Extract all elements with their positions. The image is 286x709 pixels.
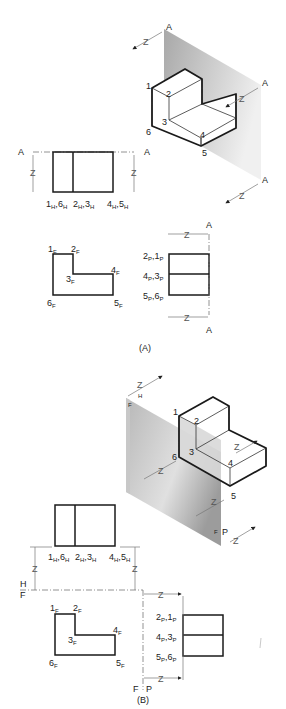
iso-b-label-2: 2 <box>194 416 199 426</box>
iso-label-5: 5 <box>202 148 207 158</box>
side-view-a-label-3: 5P,6P <box>143 291 164 302</box>
top-view-a-plane-left: A <box>18 147 24 157</box>
top-view-b: Z Z H F 1H,6H 2H,3H 4H,5H <box>20 505 143 600</box>
z-label-b3: Z <box>158 466 164 476</box>
caption-a: (A) <box>139 343 151 353</box>
plane-label-b-p-iso: P <box>222 527 228 537</box>
top-view-b-label-1: 1H,6H <box>48 552 69 563</box>
side-view-b-label-2: 4P,3P <box>156 632 177 643</box>
top-view-b-z-right: Z <box>132 564 138 574</box>
iso-b-label-3: 3 <box>189 447 194 457</box>
top-view-a-label-1: 1H,6H <box>46 199 67 210</box>
side-view-b-z-bot: Z <box>158 674 164 684</box>
front-view-a-label-2: 2F <box>71 244 80 255</box>
iso-b-label-5: 5 <box>231 491 236 501</box>
side-view-a-label-2: 4P,3P <box>143 271 164 282</box>
top-view-a-labels: 1H,6H 2H,3H 4H,5H <box>46 199 128 210</box>
front-view-a-label-5: 5F <box>114 298 123 309</box>
diagram-canvas: 1 2 3 4 5 6 A A A Z Z Z A A Z Z 1H,6H 2H… <box>0 0 286 709</box>
z-label-b4: Z <box>211 497 217 507</box>
front-view-b-label-5: 5F <box>116 658 125 669</box>
front-view-a-label-1: 1F <box>48 244 57 255</box>
stray-mark <box>260 638 261 648</box>
side-view-b: Z Z 2P,1P 4P,3P 5P,6P <box>144 590 223 684</box>
iso-b-label-6: 6 <box>172 452 177 462</box>
side-view-a: A A Z Z 2P,1P 4P,3P 5P,6P <box>143 220 212 335</box>
z-label-b5: Z <box>233 536 239 546</box>
front-view-a-label-6: 6F <box>47 298 56 309</box>
front-view-b-label-4: 4F <box>113 625 122 636</box>
z-label-a2: Z <box>239 94 245 104</box>
front-view-b-label-1: 1F <box>50 603 59 614</box>
side-view-a-plane-top: A <box>206 220 212 230</box>
side-view-b-label-1: 2P,1P <box>156 612 177 623</box>
front-view-a-label-4: 4F <box>111 265 120 276</box>
top-view-b-label-2: 2H,3H <box>75 552 96 563</box>
side-view-b-label-3: 5P,6P <box>156 652 177 663</box>
plane-label-a-bot: A <box>262 175 268 185</box>
top-view-a-label-2: 2H,3H <box>73 199 94 210</box>
plane-label-b-h-iso: H <box>138 393 142 399</box>
iso-label-6: 6 <box>146 127 151 137</box>
top-view-b-z-left: Z <box>32 564 38 574</box>
fold-label-p: P <box>146 684 152 694</box>
iso-b-label-1: 1 <box>173 407 178 417</box>
plane-label-a-mid: A <box>262 78 268 88</box>
front-view-b: 1F 2F 3F 4F 5F 6F <box>49 603 125 669</box>
iso-b-label-4: 4 <box>228 458 233 468</box>
side-view-a-label-1: 2P,1P <box>143 251 164 262</box>
top-view-b-plane-f: F <box>20 590 26 600</box>
front-view-b-label-6: 6F <box>49 658 58 669</box>
iso-label-2: 2 <box>166 89 171 99</box>
front-view-b-label-3: 3F <box>68 635 77 646</box>
iso-label-3: 3 <box>162 117 167 127</box>
top-view-a: A A Z Z <box>18 147 150 192</box>
top-view-b-label-3: 4H,5H <box>109 552 130 563</box>
figure-b: 1 2 3 4 5 6 Z H F Z Z Z Z F P Z Z H <box>20 376 266 705</box>
z-label-a3: Z <box>239 191 245 201</box>
z-label-b1: Z <box>137 380 143 390</box>
front-view-a-label-3: 3F <box>66 274 75 285</box>
iso-label-1: 1 <box>146 81 151 91</box>
side-view-b-z-top: Z <box>158 590 164 600</box>
top-view-a-z-right: Z <box>131 168 137 178</box>
z-label-a1: Z <box>143 37 149 47</box>
plane-label-b-f-iso: F <box>128 402 132 408</box>
top-view-b-plane-h: H <box>20 579 27 589</box>
z-label-b2: Z <box>234 442 240 452</box>
caption-b: (B) <box>137 695 149 705</box>
top-view-a-z-left: Z <box>30 168 36 178</box>
z-arrow-b1 <box>128 376 162 396</box>
top-view-a-plane-right: A <box>144 147 150 157</box>
side-view-a-plane-bot: A <box>206 325 212 335</box>
front-view-b-label-2: 2F <box>73 603 82 614</box>
side-view-a-z-bot: Z <box>184 313 190 323</box>
frontal-plane-b-back <box>126 398 130 494</box>
figure-a: 1 2 3 4 5 6 A A A Z Z Z A A Z Z 1H,6H 2H… <box>18 22 268 353</box>
fold-label-f: F <box>133 684 139 694</box>
front-view-a: 1F 2F 3F 4F 5F 6F <box>47 244 123 309</box>
iso-label-4: 4 <box>200 130 205 140</box>
plane-label-a-top: A <box>166 22 172 32</box>
side-view-a-z-top: Z <box>184 230 190 240</box>
plane-label-b-f-iso2: F <box>214 529 218 535</box>
top-view-a-label-3: 4H,5H <box>107 199 128 210</box>
